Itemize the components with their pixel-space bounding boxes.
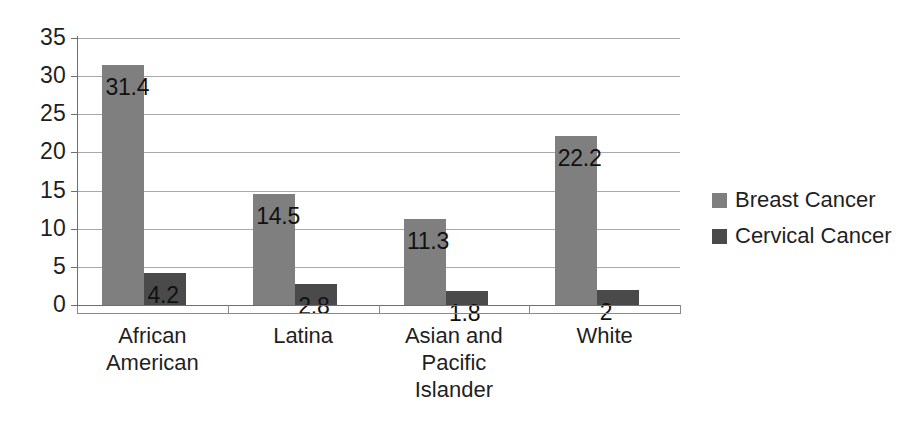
x-axis-tick-mark <box>680 305 681 314</box>
y-axis-tick-mark <box>71 152 78 153</box>
y-axis-tick-mark <box>71 191 78 192</box>
bar-value-label: 31.4 <box>105 76 149 99</box>
x-axis-category-label-line: Latina <box>228 322 379 349</box>
y-axis-tick-label: 15 <box>20 179 66 202</box>
legend-label: Cervical Cancer <box>735 225 892 247</box>
bar-value-label: 22.2 <box>558 147 602 170</box>
legend-item: Cervical Cancer <box>712 218 912 254</box>
chart-legend: Breast CancerCervical Cancer <box>712 182 912 254</box>
x-axis-tick-mark <box>529 305 530 314</box>
y-axis-tick-label: 20 <box>20 140 66 163</box>
x-axis-category-label: AfricanAmerican <box>77 322 228 376</box>
x-axis-tick-mark <box>228 305 229 314</box>
y-axis-tick-label: 35 <box>20 26 66 49</box>
y-axis-tick-mark <box>71 114 78 115</box>
x-axis-category-label-line: Pacific <box>379 349 530 376</box>
y-axis-tick-label: 0 <box>20 293 66 316</box>
legend-item: Breast Cancer <box>712 182 912 218</box>
legend-swatch-breast <box>712 193 727 208</box>
gridline <box>77 38 680 39</box>
y-axis-tick-mark <box>71 229 78 230</box>
x-axis-category-label-line: African <box>77 322 228 349</box>
x-axis-category-label-line: White <box>529 322 680 349</box>
x-axis-category-label-line: Asian and <box>379 322 530 349</box>
x-axis-category-label: Latina <box>228 322 379 349</box>
bar-value-label: 14.5 <box>256 205 300 228</box>
y-axis-tick-labels: 05101520253035 <box>10 0 66 425</box>
plot-area: 31.44.214.52.811.31.822.22 <box>77 38 680 305</box>
x-axis-tick-mark <box>379 305 380 314</box>
x-axis-category-label-line: American <box>77 349 228 376</box>
y-axis-tick-label: 25 <box>20 102 66 125</box>
gridline <box>77 114 680 115</box>
y-axis-tick-label: 30 <box>20 64 66 87</box>
x-axis-tick-mark <box>77 305 78 314</box>
x-axis-category-label-line: Islander <box>379 376 530 403</box>
y-axis-tick-mark <box>71 305 78 306</box>
x-axis-category-label: White <box>529 322 680 349</box>
bar-value-label: 11.3 <box>407 230 449 253</box>
y-axis-tick-mark <box>71 38 78 39</box>
x-axis-category-label: Asian andPacificIslander <box>379 322 530 403</box>
legend-label: Breast Cancer <box>735 189 876 211</box>
y-axis-tick-label: 5 <box>20 255 66 278</box>
y-axis-tick-mark <box>71 267 78 268</box>
gridline <box>77 76 680 77</box>
bar-value-label: 2.8 <box>298 295 329 318</box>
y-axis-tick-label: 10 <box>20 217 66 240</box>
bar-chart: 05101520253035 31.44.214.52.811.31.822.2… <box>0 0 918 425</box>
bar-breast-cancer <box>102 65 144 305</box>
y-axis-tick-mark <box>71 76 78 77</box>
bar-value-label: 4.2 <box>147 284 178 307</box>
legend-swatch-cervical <box>712 229 727 244</box>
